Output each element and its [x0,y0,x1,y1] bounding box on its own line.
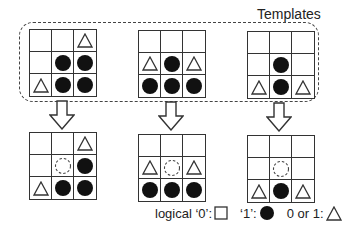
filled-circle-icon [259,205,275,221]
grid-cell-blank [292,54,314,76]
grid-cell-filled-circle [139,179,161,201]
grid-cell-blank [139,31,161,53]
grid-cell-filled-circle [74,177,96,199]
filled-circle-icon [141,181,159,199]
grid-cell-blank [270,136,292,158]
grid-cell-triangle [248,180,270,202]
grid-cell-triangle [292,76,314,98]
square-icon [214,206,228,220]
result-grid-3 [247,135,315,203]
grid-cell-blank [292,158,314,180]
grid-cell-blank [30,155,52,177]
filled-circle-icon [272,182,290,200]
filled-circle-icon [76,157,94,175]
grid-cell-blank [52,133,74,155]
grid-cell-filled-circle [270,54,292,76]
grid-cell-blank [270,32,292,54]
grid-cell-filled-circle [52,74,74,96]
grid-cell-triangle [248,76,270,98]
down-arrow-icon [49,100,75,130]
legend-either-label: 0 or 1: [287,206,324,221]
filled-circle-icon [272,78,290,96]
grid-cell-blank [248,136,270,158]
legend: logical ‘0’: ‘1’: 0 or 1: [155,205,346,221]
triangle-icon [77,136,93,151]
grid-cell-filled-circle [161,75,183,97]
legend-either: 0 or 1: [287,206,342,221]
legend-zero-label: logical ‘0’: [155,206,212,221]
filled-circle-icon [54,54,72,72]
filled-circle-icon [54,179,72,197]
triangle-icon [142,56,158,71]
triangle-icon [326,206,342,221]
grid-cell-blank [292,136,314,158]
grid-cell-blank [30,52,52,74]
grid-cell-filled-circle [270,76,292,98]
filled-circle-icon [185,181,203,199]
grid-cell-blank [161,31,183,53]
grid-cell-blank [30,30,52,52]
template-grid-2 [138,30,206,98]
filled-circle-icon [76,76,94,94]
filled-circle-icon [141,77,159,95]
down-arrow-icon [266,102,292,132]
template-grid-3 [247,31,315,99]
legend-zero: logical ‘0’: [155,206,228,221]
grid-cell-blank [183,135,205,157]
filled-circle-icon [163,77,181,95]
grid-cell-filled-circle [74,155,96,177]
grid-cell-filled-circle [74,52,96,74]
grid-cell-filled-circle [183,75,205,97]
grid-cell-triangle [292,180,314,202]
triangle-icon [77,33,93,48]
filled-circle-icon [185,77,203,95]
grid-cell-dashed-circle [52,155,74,177]
grid-cell-filled-circle [270,180,292,202]
triangle-icon [33,78,49,93]
grid-cell-blank [248,32,270,54]
grid-cell-blank [52,30,74,52]
down-arrow-icon [158,101,184,131]
dashed-circle-icon [163,159,181,177]
grid-cell-filled-circle [161,53,183,75]
grid-cell-triangle [139,157,161,179]
dashed-circle-icon [272,160,290,178]
grid-cell-triangle [183,157,205,179]
grid-cell-blank [248,158,270,180]
filled-circle-icon [163,55,181,73]
grid-cell-filled-circle [183,179,205,201]
template-grid-1 [29,29,97,97]
triangle-icon [251,184,267,199]
grid-cell-blank [139,135,161,157]
grid-cell-triangle [74,133,96,155]
templates-label: Templates [257,6,321,22]
grid-cell-filled-circle [161,179,183,201]
triangle-icon [295,80,311,95]
grid-cell-triangle [30,74,52,96]
triangle-icon [186,160,202,175]
grid-cell-triangle [74,30,96,52]
filled-circle-icon [163,181,181,199]
grid-cell-blank [248,54,270,76]
grid-cell-dashed-circle [161,157,183,179]
grid-cell-filled-circle [139,75,161,97]
filled-circle-icon [76,54,94,72]
filled-circle-icon [76,179,94,197]
grid-cell-dashed-circle [270,158,292,180]
filled-circle-icon [54,76,72,94]
grid-cell-triangle [139,53,161,75]
dashed-circle-icon [54,157,72,175]
result-grid-2 [138,134,206,202]
grid-cell-filled-circle [52,177,74,199]
triangle-icon [142,160,158,175]
filled-circle-icon [272,56,290,74]
grid-cell-blank [161,135,183,157]
grid-cell-triangle [183,53,205,75]
grid-cell-blank [292,32,314,54]
triangle-icon [33,181,49,196]
grid-cell-filled-circle [74,74,96,96]
triangle-icon [186,56,202,71]
grid-cell-filled-circle [52,52,74,74]
triangle-icon [295,184,311,199]
triangle-icon [251,80,267,95]
